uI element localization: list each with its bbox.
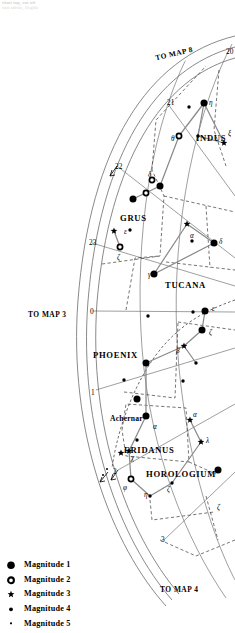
legend-row-magnitude-2: Magnitude 2 (4, 573, 154, 588)
constellation-line (154, 243, 214, 274)
constellation-label-horologium: HOROLOGIUM (146, 470, 216, 479)
declination-arcs (140, 40, 235, 598)
hour-label-3: 3 (161, 536, 165, 543)
legend-label: Magnitude 4 (24, 604, 71, 613)
star-label-gamma-tucanae: γ (148, 272, 151, 279)
inner-arc-1 (87, 47, 235, 600)
hour-label-20: 20 (226, 48, 233, 55)
boundary-indus-west (152, 66, 206, 170)
star-label-alpha-eridani: α (153, 424, 157, 431)
star-marker-mag-4 (146, 314, 149, 317)
star-marker-mag-2 (176, 133, 181, 138)
star-marker-mag-4 (170, 481, 173, 484)
constellation-line (190, 420, 201, 442)
star-marker-mag-1 (130, 196, 137, 203)
star-label-phi-eridani: φ (123, 485, 127, 492)
boundary-phe-east (178, 322, 235, 330)
star-chart-page: chart top, cut off faint subtitle, illeg… (0, 0, 235, 633)
hour-label-21: 21 (167, 99, 174, 106)
star-marker-mag-1 (134, 396, 141, 403)
star-label-delta-indi: δ (148, 172, 151, 179)
star-label-delta-tucanae: δ (219, 239, 222, 246)
star-label-zeta-hor: ζ (167, 487, 170, 494)
chart-interior (92, 40, 235, 598)
named-star-label-achernar: Achernar (110, 415, 143, 423)
hour-label-22: 22 (115, 163, 122, 170)
star-label-chi-eridani: χ (131, 455, 134, 462)
legend-glyph (8, 591, 15, 598)
legend-row-magnitude-1: Magnitude 1 (4, 558, 154, 573)
legend-symbol-filled-dot-icon (4, 616, 22, 631)
legend-row-magnitude-5: Magnitude 5 (4, 616, 154, 631)
star-label-eta-hor: η (144, 492, 148, 499)
legend-label: Magnitude 5 (24, 619, 71, 628)
star-label-epsilon-gruis: ε (124, 229, 127, 236)
constellation-label-indus: INDUS (196, 134, 226, 143)
legend-label: Magnitude 3 (24, 589, 71, 598)
star-label-xi-indi: ξ (228, 131, 231, 138)
star-label-zeta-gruis: ζ (117, 255, 120, 262)
star-marker-mag-2 (143, 190, 148, 195)
legend-row-magnitude-4: Magnitude 4 (4, 602, 154, 617)
constellation-label-phoenix: PHOENIX (93, 351, 138, 360)
star-marker-mag-1 (199, 327, 206, 334)
constellation-line (184, 330, 202, 346)
star-marker-mag-4 (194, 361, 197, 364)
star-label-alpha-tucanae: α (190, 233, 194, 240)
constellation-label-tucana: TUCANA (165, 281, 206, 290)
star-marker-mag-4 (128, 228, 131, 231)
hour-label-1: 1 (91, 389, 95, 396)
star-marker-mag-3 (111, 228, 118, 234)
ra-line-22 (117, 166, 235, 258)
star-label-zeta-ret: ζ (217, 505, 220, 512)
hour-label-23: 23 (89, 239, 96, 246)
star-label-epsilon-phe: ε (212, 306, 215, 313)
legend-glyph (8, 577, 14, 583)
legend-row-magnitude-3: Magnitude 3 (4, 587, 154, 602)
legend-glyph (10, 623, 12, 625)
star-marker-mag-5 (102, 474, 104, 476)
star-marker-mag-1 (202, 308, 209, 315)
dec-arc-1 (140, 40, 226, 598)
star-label-eta-indi: η (209, 100, 213, 107)
star-marker-mag-3 (198, 439, 205, 445)
star-marker-mag-1 (143, 360, 150, 367)
star-label-theta-indi: θ (171, 136, 175, 143)
star-marker-mag-2 (128, 476, 133, 481)
star-label-lambda-hor: λ (206, 438, 209, 445)
legend-glyph (7, 561, 15, 569)
star-marker-mag-4 (135, 438, 138, 441)
star-marker-mag-4 (122, 378, 125, 381)
legend-symbol-open-circle-icon (4, 573, 22, 588)
star-marker-mag-1 (201, 100, 208, 107)
hour-tick-arrows (100, 166, 118, 482)
legend-symbol-filled-small-icon (4, 602, 22, 617)
hour-label-0: 0 (90, 308, 94, 315)
star-label-alpha-hor: α (193, 412, 197, 419)
star-label-zeta-phe: ζ (209, 330, 212, 337)
boundary-tuc-east (206, 206, 210, 268)
star-label-beta-phe: β (176, 348, 180, 355)
star-marker-mag-1 (151, 271, 158, 278)
star-marker-mag-4 (148, 494, 151, 497)
star-marker-mag-4 (181, 379, 184, 382)
star-marker-mag-2 (117, 244, 122, 249)
star-marker-mag-5 (106, 468, 108, 470)
legend-symbol-star-icon (4, 587, 22, 602)
boundary-hydrus (160, 540, 235, 556)
boundary-phoenix-s (124, 322, 178, 398)
star-marker-mag-4 (191, 310, 194, 313)
constellation-label-grus: GRUS (120, 214, 147, 223)
star-marker-mag-1 (143, 413, 150, 420)
legend-label: Magnitude 1 (24, 560, 71, 569)
legend-glyph (9, 607, 13, 611)
boundary-reticulum (206, 496, 218, 540)
ecliptic-path (112, 300, 235, 468)
magnitude-legend: Magnitude 1Magnitude 2Magnitude 3Magnitu… (4, 558, 154, 631)
outer-arc (77, 36, 235, 606)
boundary-indus-east (214, 70, 226, 166)
map-reference-to-map-3: TO MAP 3 (28, 311, 66, 318)
legend-label: Magnitude 2 (24, 575, 71, 584)
star-marker-mag-4 (187, 105, 190, 108)
legend-symbol-filled-large-icon (4, 558, 22, 573)
